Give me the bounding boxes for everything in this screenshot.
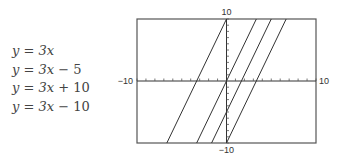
y-min-label: −10 bbox=[219, 145, 234, 155]
graph-window: 10 −10 −10 10 bbox=[0, 0, 341, 162]
y-max-label: 10 bbox=[221, 7, 231, 17]
x-min-label: −10 bbox=[118, 76, 133, 86]
x-max-label: 10 bbox=[319, 76, 329, 86]
